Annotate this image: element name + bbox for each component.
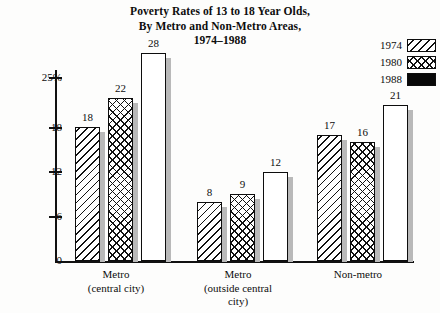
bar-value-label: 8 bbox=[191, 187, 228, 198]
bar-1980-metro-outside-central-city bbox=[230, 194, 255, 261]
category-label-metro-outside-central-city: Metro (outside central city) bbox=[178, 268, 298, 309]
bar-shadow bbox=[288, 177, 293, 262]
y-tick-label-6: 6 bbox=[18, 211, 62, 222]
bar-shadow bbox=[408, 110, 413, 262]
bar-1988-non-metro bbox=[383, 105, 408, 261]
poverty-rates-bar-chart: Poverty Rates of 13 to 18 Year Olds, By … bbox=[0, 0, 440, 313]
bar-shadow bbox=[222, 207, 227, 262]
bar-value-label: 18 bbox=[69, 112, 106, 123]
bar-1988-metro-outside-central-city bbox=[263, 172, 288, 261]
category-label-non-metro: Non-metro bbox=[298, 268, 418, 282]
bar-shadow bbox=[166, 58, 171, 262]
bar-value-label: 16 bbox=[344, 127, 381, 138]
bar-shadow bbox=[255, 199, 260, 262]
y-tick-label-12: 12 bbox=[18, 166, 62, 177]
bar-1988-metro-central-city bbox=[141, 53, 166, 261]
bar-value-label: 22 bbox=[102, 83, 139, 94]
bar-value-label: 21 bbox=[377, 90, 414, 101]
bar-1974-non-metro bbox=[317, 135, 342, 261]
bar-shadow bbox=[133, 103, 138, 262]
bar-value-label: 28 bbox=[135, 38, 172, 49]
bar-value-label: 9 bbox=[224, 179, 261, 190]
category-label-metro-central-city: Metro (central city) bbox=[56, 268, 176, 295]
bar-1974-metro-central-city bbox=[75, 127, 100, 261]
bar-shadow bbox=[100, 132, 105, 262]
bar-value-label: 12 bbox=[257, 157, 294, 168]
plot-area: 25% 18 12 6 0 1822288912171621 Metro (ce… bbox=[0, 0, 440, 313]
bar-1980-non-metro bbox=[350, 142, 375, 261]
y-tick-label-0: 0 bbox=[18, 255, 62, 266]
y-tick-label-25: 25% bbox=[18, 72, 62, 83]
x-axis-line bbox=[55, 261, 414, 263]
y-tick-label-18: 18 bbox=[18, 122, 62, 133]
bar-1974-metro-outside-central-city bbox=[197, 202, 222, 261]
bar-value-label: 17 bbox=[311, 120, 348, 131]
bar-shadow bbox=[375, 147, 380, 262]
bar-1980-metro-central-city bbox=[108, 98, 133, 261]
bar-shadow bbox=[342, 140, 347, 262]
